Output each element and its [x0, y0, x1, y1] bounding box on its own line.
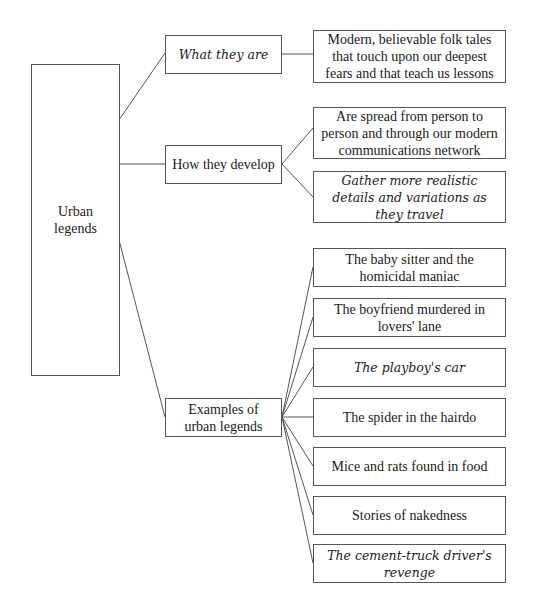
branch-what-they-are: What they are: [165, 35, 282, 74]
leaf-example: The spider in the hairdo: [313, 398, 506, 437]
branch-examples: Examples of urban legends: [165, 398, 282, 437]
leaf-definition: Modern, believable folk tales that touch…: [313, 30, 506, 83]
leaf-example: The cement-truck driver's revenge: [313, 544, 506, 583]
leaf-example: Mice and rats found in food: [313, 447, 506, 486]
root-label: Urban legends: [38, 203, 113, 237]
leaf-example: The boyfriend murdered in lovers' lane: [313, 298, 506, 337]
leaf-example: The playboy's car: [313, 348, 506, 387]
leaf-spread: Are spread from person to person and thr…: [313, 107, 506, 159]
leaf-example: The baby sitter and the homicidal maniac: [313, 248, 506, 287]
root-node: Urban legends: [31, 64, 120, 376]
leaf-example: Stories of nakedness: [313, 496, 506, 535]
leaf-gather: Gather more realistic details and variat…: [313, 171, 506, 223]
branch-how-they-develop: How they develop: [165, 145, 282, 184]
